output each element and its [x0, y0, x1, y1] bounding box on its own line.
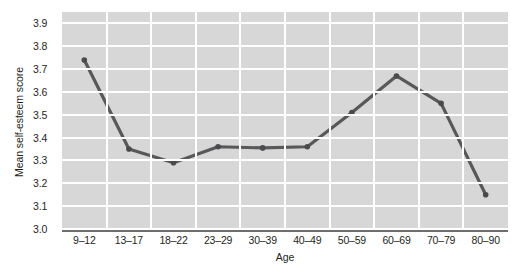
- y-axis-title: Mean self-esteem score: [10, 7, 28, 237]
- y-tick-label: 3.4: [33, 131, 59, 145]
- vertical-gridline: [195, 12, 197, 229]
- y-axis-tick-labels: 3.03.13.23.33.43.53.63.73.83.9: [33, 12, 59, 230]
- y-tick-label: 3.1: [33, 199, 59, 213]
- data-point-marker: [394, 73, 400, 79]
- vertical-gridline: [284, 12, 286, 229]
- data-point-marker: [438, 101, 444, 107]
- y-tick-label: 3.3: [33, 153, 59, 167]
- y-tick-label: 3.6: [33, 85, 59, 99]
- x-tick-label: 80–90: [451, 233, 518, 248]
- vertical-gridline: [329, 12, 331, 229]
- data-point-marker: [483, 192, 489, 198]
- data-point-marker: [126, 146, 132, 152]
- y-tick-label: 3.8: [33, 39, 59, 53]
- y-tick-label: 3.9: [33, 16, 59, 30]
- x-axis-line: [62, 230, 508, 232]
- data-point-marker: [305, 144, 311, 150]
- y-tick-label: 3.2: [33, 176, 59, 190]
- data-point-marker: [82, 57, 88, 63]
- vertical-gridline: [239, 12, 241, 229]
- data-point-marker: [260, 145, 266, 151]
- vertical-gridline: [150, 12, 152, 229]
- vertical-gridline: [373, 12, 375, 229]
- line-chart: Mean self-esteem score 3.03.13.23.33.43.…: [0, 0, 518, 280]
- data-point-marker: [215, 144, 221, 150]
- plot-area: [62, 12, 508, 229]
- x-axis-tick-labels: 9–1213–1718–2223–2930–3940–4950–5960–697…: [62, 233, 508, 249]
- y-tick-label: 3.5: [33, 108, 59, 122]
- vertical-gridline: [462, 12, 464, 229]
- vertical-gridline: [106, 12, 108, 229]
- y-tick-label: 3.7: [33, 62, 59, 76]
- x-axis-title: Age: [62, 250, 508, 264]
- vertical-gridline: [418, 12, 420, 229]
